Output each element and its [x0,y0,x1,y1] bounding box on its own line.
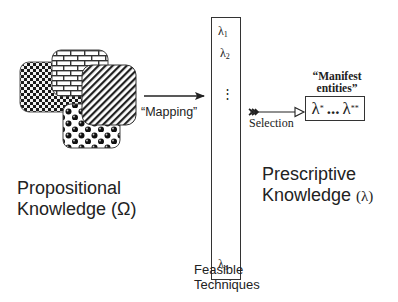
prescriptive-label-line2: Knowledge (λ) [262,185,373,207]
knowledge-word: Knowledge [17,199,106,219]
feasible-label-line2: Techniques [194,277,260,292]
star-superscript: * [320,105,324,113]
ellipsis: ... [327,100,340,117]
feasible-techniques-label: Feasible Techniques [194,262,260,292]
knowledge-word: Knowledge [262,185,351,205]
subscript: 2 [226,52,230,61]
propositional-label-line1: Propositional [17,178,137,199]
selection-label: Selection [249,116,294,131]
manifest-entities-title: “Manifest entities” [310,70,364,94]
propositional-label-line2: Knowledge (Ω) [17,199,137,220]
subscript: 1 [224,30,228,39]
double-star-superscript: ** [351,105,359,113]
lambda-double-star: λ [342,100,350,117]
technique-lambda-2: λ2 [220,46,230,61]
mapping-label: “Mapping” [141,105,197,119]
lambda-star: λ [311,100,319,117]
diagram-canvas: Propositional Knowledge (Ω) “Mapping” λ1… [0,0,398,302]
manifest-entities-box: λ* ... λ** [305,96,365,121]
diagram-graphics [0,0,398,302]
technique-lambda-1: λ1 [218,24,228,39]
vertical-ellipsis: ⋮ [221,86,234,101]
prescriptive-knowledge-label: Prescriptive Knowledge (λ) [262,164,373,207]
manifest-title-line2: entities” [310,82,364,94]
manifest-title-line1: “Manifest [310,70,364,82]
prescriptive-label-line1: Prescriptive [262,164,373,185]
omega-symbol: (Ω) [111,199,136,219]
feasible-label-line1: Feasible [194,262,260,277]
technique-ellipsis: ⋮ [221,86,234,102]
lambda-symbol: (λ) [356,188,373,204]
propositional-knowledge-label: Propositional Knowledge (Ω) [17,178,137,220]
striped-region [82,65,136,125]
